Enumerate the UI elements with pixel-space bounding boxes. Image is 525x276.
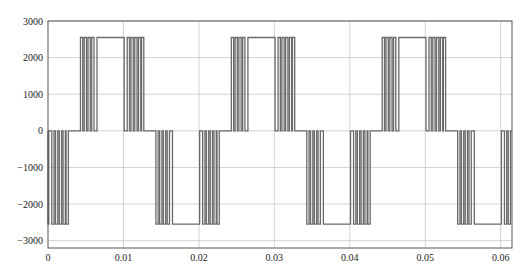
x-tick-label: 0.06 — [492, 252, 510, 263]
y-tick-label: 2000 — [23, 52, 43, 63]
x-tick-label: 0.02 — [190, 252, 208, 263]
x-tick-label: 0.01 — [115, 252, 133, 263]
y-axis-ticks: 3000200010000−1000−2000−3000 — [17, 16, 43, 247]
x-axis-ticks: 00.010.020.030.040.050.06 — [46, 252, 510, 263]
y-tick-label: 1000 — [23, 89, 43, 100]
x-tick-label: 0 — [46, 252, 51, 263]
line-chart: 3000200010000−1000−2000−3000 00.010.020.… — [0, 0, 525, 276]
y-tick-label: 3000 — [23, 16, 43, 27]
y-tick-label: 0 — [38, 125, 43, 136]
x-tick-label: 0.03 — [266, 252, 284, 263]
x-tick-label: 0.05 — [416, 252, 434, 263]
y-tick-label: −1000 — [17, 162, 43, 173]
x-tick-label: 0.04 — [341, 252, 359, 263]
y-tick-label: −2000 — [17, 199, 43, 210]
y-tick-label: −3000 — [17, 235, 43, 246]
